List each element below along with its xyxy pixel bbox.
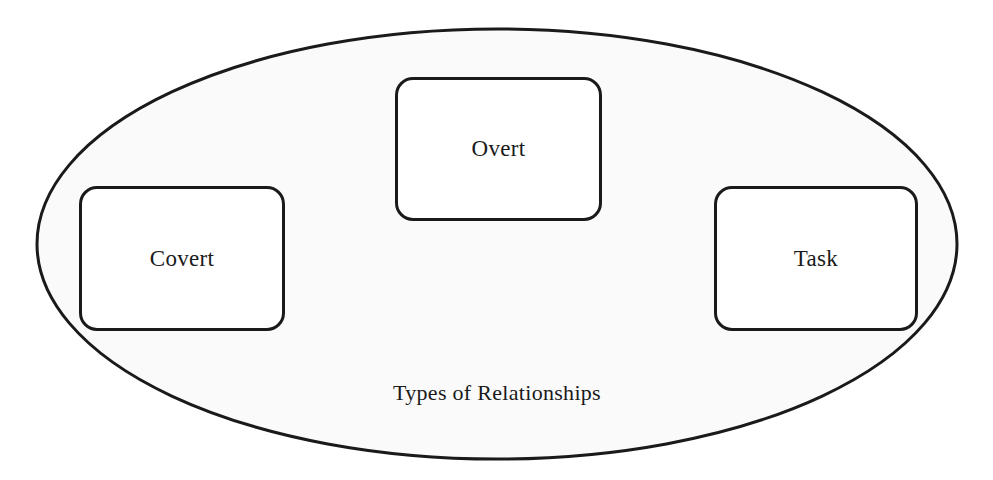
node-overt: Overt bbox=[395, 77, 602, 221]
node-overt-label: Overt bbox=[472, 136, 526, 162]
node-task: Task bbox=[714, 186, 918, 331]
node-covert: Covert bbox=[79, 186, 285, 331]
node-task-label: Task bbox=[794, 246, 838, 272]
container-caption: Types of Relationships bbox=[347, 380, 647, 406]
node-covert-label: Covert bbox=[150, 246, 214, 272]
